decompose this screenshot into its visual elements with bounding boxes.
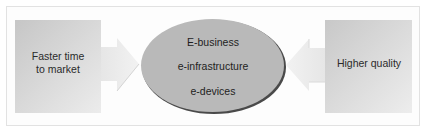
left-box-label: Faster time to market: [15, 50, 101, 75]
right-box-label: Higher quality: [325, 57, 413, 70]
left-box-label-line1: Faster time: [15, 50, 101, 63]
center-item-edevices: e-devices: [141, 85, 285, 97]
left-box-label-line2: to market: [15, 63, 101, 76]
right-arrow-icon: [101, 38, 139, 91]
center-item-ebusiness: E-business: [141, 36, 285, 48]
left-arrow-icon: [286, 39, 325, 91]
center-item-einfrastructure: e-infrastructure: [141, 60, 285, 72]
